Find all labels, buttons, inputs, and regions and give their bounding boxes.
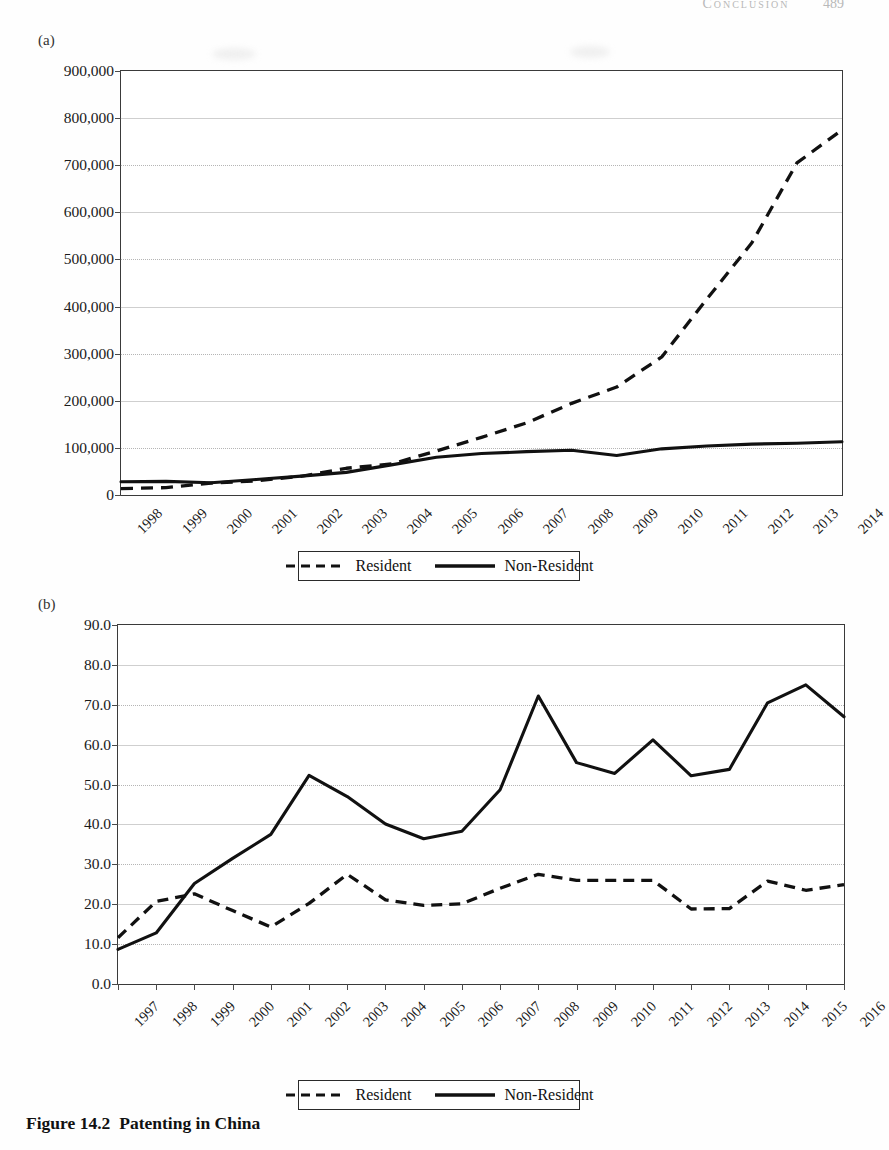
y-axis-tick-label: 70.0 — [84, 696, 111, 714]
legend-item-non-resident: Non-Resident — [434, 1086, 594, 1104]
x-axis-tick-label: 2005 — [436, 998, 469, 1031]
x-axis-tick-mark — [309, 984, 310, 990]
x-axis-tick-mark — [538, 984, 539, 990]
x-axis-tick-label: 2002 — [322, 998, 355, 1031]
x-axis-tick-mark — [118, 984, 119, 990]
y-axis-tick-label: 40.0 — [84, 815, 111, 833]
legend-item-resident: Resident — [285, 1086, 412, 1104]
x-axis-tick-mark — [729, 984, 730, 990]
x-axis-tick-label: 2001 — [283, 998, 316, 1031]
legend-solid-line-icon — [434, 1090, 496, 1100]
panel-b-legend: Resident Non-Resident — [298, 1080, 580, 1110]
legend-label-resident: Resident — [356, 1086, 412, 1104]
x-axis-tick-label: 2012 — [704, 998, 737, 1031]
legend-dashed-line-icon — [285, 1090, 347, 1100]
x-axis-tick-mark — [233, 984, 234, 990]
y-axis-tick-label: 60.0 — [84, 736, 111, 754]
x-axis-tick-mark — [806, 984, 807, 990]
x-axis-tick-mark — [194, 984, 195, 990]
x-axis-tick-label: 1999 — [207, 998, 240, 1031]
x-axis-tick-mark — [653, 984, 654, 990]
figure-caption: Figure 14.2Patenting in China — [26, 1113, 260, 1134]
y-axis-tick-label: 50.0 — [84, 776, 111, 794]
y-axis-tick-label: 80.0 — [84, 656, 111, 674]
x-axis-tick-label: 2008 — [551, 998, 584, 1031]
x-axis-tick-label: 2013 — [742, 998, 775, 1031]
x-axis-tick-mark — [424, 984, 425, 990]
x-axis-tick-label: 2016 — [856, 998, 889, 1031]
x-axis-tick-mark — [768, 984, 769, 990]
x-axis-tick-mark — [577, 984, 578, 990]
x-axis-tick-mark — [462, 984, 463, 990]
panel-b-plot-area: 0.010.020.030.040.050.060.070.080.090.01… — [117, 624, 845, 985]
y-axis-tick-label: 90.0 — [84, 616, 111, 634]
x-axis-tick-label: 2011 — [665, 998, 697, 1030]
figure-caption-number: Figure 14.2 — [26, 1113, 110, 1133]
x-axis-tick-mark — [347, 984, 348, 990]
x-axis-tick-label: 2015 — [818, 998, 851, 1031]
panel-b-label: (b) — [38, 596, 56, 613]
x-axis-tick-mark — [691, 984, 692, 990]
x-axis-tick-label: 2014 — [780, 998, 813, 1031]
x-axis-tick-label: 1997 — [130, 998, 163, 1031]
y-axis-tick-label: 20.0 — [84, 895, 111, 913]
x-axis-tick-mark — [500, 984, 501, 990]
x-axis-tick-mark — [385, 984, 386, 990]
x-axis-tick-mark — [615, 984, 616, 990]
x-axis-tick-label: 2007 — [513, 998, 546, 1031]
x-axis-tick-label: 2004 — [398, 998, 431, 1031]
x-axis-tick-mark — [156, 984, 157, 990]
legend-label-non-resident: Non-Resident — [505, 1086, 594, 1104]
x-axis-tick-mark — [271, 984, 272, 990]
x-axis-tick-label: 1998 — [169, 998, 202, 1031]
y-axis-tick-label: 30.0 — [84, 855, 111, 873]
x-axis-tick-label: 2006 — [474, 998, 507, 1031]
x-axis-tick-label: 2009 — [589, 998, 622, 1031]
series-layer — [118, 625, 844, 984]
series-line-resident — [118, 874, 844, 937]
y-axis-tick-label: 10.0 — [84, 935, 111, 953]
y-axis-tick-label: 0.0 — [92, 975, 111, 993]
x-axis-tick-mark — [844, 984, 845, 990]
figure-caption-title: Patenting in China — [119, 1113, 260, 1133]
x-axis-tick-label: 2000 — [245, 998, 278, 1031]
x-axis-tick-label: 2003 — [360, 998, 393, 1031]
x-axis-tick-label: 2010 — [627, 998, 660, 1031]
